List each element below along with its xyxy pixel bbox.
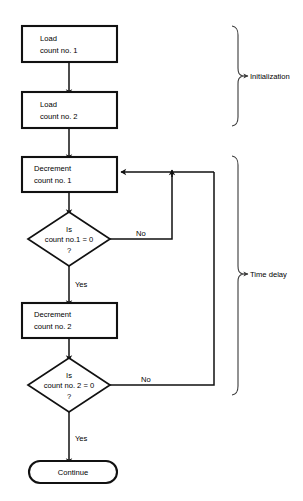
brace-time-delay-label: Time delay <box>250 270 287 279</box>
brace-time-delay-path <box>232 156 243 395</box>
node-decision-count-1-zero-line-3: ? <box>67 246 71 255</box>
node-decrement-count-2-line-1: Decrement <box>34 310 72 319</box>
brace-initialization: Initialization <box>232 26 290 126</box>
node-load-count-1-line-2: count no. 1 <box>40 46 78 55</box>
flowchart-canvas: Load count no. 1 Load count no. 2 Decrem… <box>0 0 303 501</box>
node-decrement-count-1: Decrement count no. 1 <box>22 157 117 192</box>
edge-label-test2-no: No <box>141 375 151 384</box>
edge-test2-no-path <box>110 172 214 385</box>
node-decision-count-1-zero: Is count no.1 = 0 ? <box>28 212 110 266</box>
node-decision-count-1-zero-line-1: Is <box>66 225 72 234</box>
brace-time-delay: Time delay <box>232 156 287 395</box>
edge-label-test1-no: No <box>136 229 146 238</box>
edge-label-test2-yes: Yes <box>75 434 88 443</box>
edge-label-test1-yes: Yes <box>75 280 88 289</box>
node-load-count-2-line-1: Load <box>40 100 57 109</box>
node-decrement-count-1-line-1: Decrement <box>34 164 72 173</box>
node-decrement-count-2-box <box>22 303 117 338</box>
node-load-count-2-box <box>22 92 117 128</box>
node-decision-count-2-zero-line-2: count no. 2 = 0 <box>44 381 94 390</box>
node-load-count-1: Load count no. 1 <box>22 26 117 62</box>
node-decrement-count-2-line-2: count no. 2 <box>34 322 72 331</box>
node-load-count-1-box <box>22 26 117 62</box>
brace-initialization-path <box>232 26 243 126</box>
node-load-count-1-line-1: Load <box>40 34 57 43</box>
node-decision-count-2-zero: Is count no. 2 = 0 ? <box>28 358 110 412</box>
node-decision-count-2-zero-line-1: Is <box>66 371 72 380</box>
node-continue: Continue <box>29 461 117 483</box>
node-decrement-count-1-line-2: count no. 1 <box>34 176 72 185</box>
node-load-count-2: Load count no. 2 <box>22 92 117 128</box>
node-decision-count-1-zero-line-2: count no.1 = 0 <box>45 235 93 244</box>
node-decision-count-2-zero-line-3: ? <box>67 392 71 401</box>
node-load-count-2-line-2: count no. 2 <box>40 112 78 121</box>
node-decrement-count-2: Decrement count no. 2 <box>22 303 117 338</box>
flowchart-svg: Load count no. 1 Load count no. 2 Decrem… <box>0 0 303 501</box>
brace-initialization-label: Initialization <box>250 72 290 81</box>
node-decrement-count-1-box <box>22 157 117 192</box>
node-continue-label: Continue <box>58 468 88 477</box>
